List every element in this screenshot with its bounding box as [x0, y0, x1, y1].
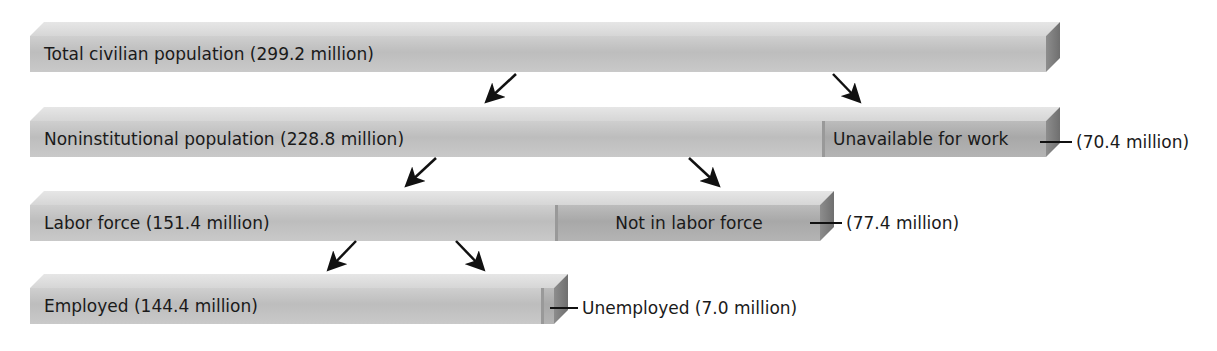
arrow-icon	[488, 74, 516, 100]
flow-arrows	[0, 0, 1217, 351]
arrow-icon	[833, 74, 858, 100]
arrow-icon	[408, 158, 436, 184]
arrow-icon	[689, 158, 717, 184]
arrow-icon	[330, 241, 356, 268]
arrow-icon	[456, 241, 482, 268]
